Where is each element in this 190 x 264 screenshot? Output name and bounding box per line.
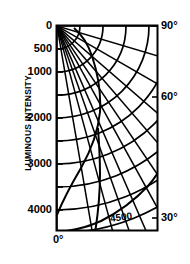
tick-label-0: 0 (6, 19, 52, 31)
angle-label-90: 90° (161, 19, 178, 31)
tick-label-3000: 3000 (0, 157, 52, 169)
angle-label-30: 30° (161, 211, 178, 223)
tick-label-4000: 4000 (0, 203, 52, 215)
tick-label-2000: 2000 (0, 111, 52, 123)
tick-label-500: 500 (6, 42, 52, 54)
angle-label-60: 60° (161, 90, 178, 102)
tick-label-1000: 1000 (0, 65, 52, 77)
angle-label-0: 0° (53, 233, 64, 245)
plot-frame (57, 26, 158, 231)
luminous-intensity-polar-chart: LUMINOUS INTENSITY 0 500 1000 2000 3000 … (0, 0, 190, 264)
